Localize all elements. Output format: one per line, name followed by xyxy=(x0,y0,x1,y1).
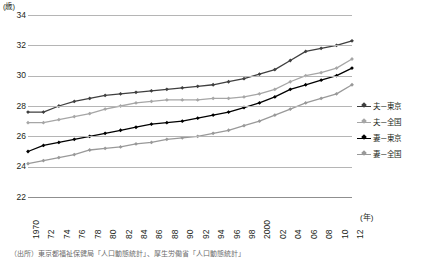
gridline xyxy=(28,136,352,137)
data-point-marker xyxy=(26,162,30,166)
x-axis-unit-label: (年) xyxy=(360,213,373,222)
data-point-marker xyxy=(180,119,184,123)
x-axis-tick: 78 xyxy=(94,230,103,239)
legend-item[interactable]: 夫－全国 xyxy=(357,114,422,130)
data-point-marker xyxy=(319,71,323,75)
data-point-marker xyxy=(57,156,61,160)
y-axis-tick: 26 xyxy=(4,132,26,141)
data-point-marker xyxy=(227,80,231,84)
legend-item-label: 夫－全国 xyxy=(373,118,401,127)
data-point-marker xyxy=(227,110,231,114)
data-point-marker xyxy=(196,116,200,120)
data-point-marker xyxy=(134,101,138,105)
x-axis-tick: 90 xyxy=(186,230,195,239)
data-point-marker xyxy=(150,141,154,145)
data-point-marker xyxy=(196,98,200,102)
data-point-marker xyxy=(180,86,184,90)
gridline xyxy=(28,197,352,198)
data-point-marker xyxy=(350,39,354,43)
data-point-marker xyxy=(165,137,169,141)
series-line xyxy=(28,59,352,123)
legend-marker-icon xyxy=(357,149,371,159)
legend-item-label: 妻－東京 xyxy=(373,134,401,143)
gridline xyxy=(28,45,352,46)
legend-item[interactable]: 夫－東京 xyxy=(357,98,422,114)
x-axis-tick: 1970 xyxy=(32,220,41,239)
data-point-marker xyxy=(134,142,138,146)
y-axis-tick: 22 xyxy=(4,193,26,202)
y-axis-tick: 24 xyxy=(4,162,26,171)
y-axis-tick: 34 xyxy=(4,11,26,20)
data-point-marker xyxy=(88,148,92,152)
data-point-marker xyxy=(165,98,169,102)
data-point-marker xyxy=(119,145,123,149)
data-point-marker xyxy=(72,100,76,104)
x-axis-tick: 10 xyxy=(341,230,350,239)
x-axis-tick: 72 xyxy=(47,230,56,239)
x-axis-tick: 84 xyxy=(140,230,149,239)
x-axis-tick: 92 xyxy=(202,230,211,239)
legend-marker-icon xyxy=(357,117,371,127)
data-point-marker xyxy=(57,118,61,122)
data-point-marker xyxy=(165,121,169,125)
x-axis-tick: 74 xyxy=(63,230,72,239)
data-point-marker xyxy=(258,119,262,123)
gridline xyxy=(28,106,352,107)
data-point-marker xyxy=(211,97,215,101)
legend-marker-icon xyxy=(357,133,371,143)
x-axis-tick: 2000 xyxy=(263,220,272,239)
data-point-marker xyxy=(196,84,200,88)
data-point-marker xyxy=(26,150,30,154)
data-point-marker xyxy=(103,107,107,111)
gridline xyxy=(28,15,352,16)
data-point-marker xyxy=(165,87,169,91)
data-point-marker xyxy=(304,101,308,105)
gridline xyxy=(28,76,352,77)
x-axis-tick-labels: 1970727476788082848688909294969820000204… xyxy=(28,199,352,241)
legend-item[interactable]: 妻－東京 xyxy=(357,130,422,146)
data-point-marker xyxy=(150,122,154,126)
x-axis-tick: 82 xyxy=(125,230,134,239)
data-point-marker xyxy=(134,90,138,94)
data-point-marker xyxy=(42,121,46,125)
x-axis-tick: 12 xyxy=(356,230,365,239)
data-point-marker xyxy=(150,100,154,104)
data-point-marker xyxy=(242,77,246,81)
data-point-marker xyxy=(42,159,46,163)
data-point-marker xyxy=(288,107,292,111)
data-point-marker xyxy=(227,128,231,132)
series-line xyxy=(28,68,352,151)
x-axis-tick: 88 xyxy=(171,230,180,239)
data-point-marker xyxy=(242,124,246,128)
data-point-marker xyxy=(57,141,61,145)
data-point-marker xyxy=(319,78,323,82)
data-point-marker xyxy=(88,97,92,101)
data-point-marker xyxy=(119,128,123,132)
data-point-marker xyxy=(180,98,184,102)
data-point-marker xyxy=(42,110,46,114)
x-axis-tick: 06 xyxy=(310,230,319,239)
series-line xyxy=(28,85,352,164)
data-point-marker xyxy=(72,153,76,157)
data-point-marker xyxy=(26,110,30,114)
x-axis-tick: 94 xyxy=(217,230,226,239)
y-axis-tick: 28 xyxy=(4,102,26,111)
data-point-marker xyxy=(103,93,107,97)
legend-item-label: 妻－全国 xyxy=(373,150,401,159)
data-point-marker xyxy=(42,144,46,148)
source-note: （出所）東京都福祉保健局「人口動態統計」、厚生労働省「人口動態統計」 xyxy=(10,250,422,258)
data-point-marker xyxy=(88,112,92,116)
line-chart: (歳) 22242628303234 197072747678808284868… xyxy=(0,0,422,258)
data-point-marker xyxy=(258,101,262,105)
data-point-marker xyxy=(319,46,323,50)
data-point-marker xyxy=(72,115,76,119)
data-point-marker xyxy=(258,92,262,96)
legend-marker-icon xyxy=(357,101,371,111)
x-axis-tick: 86 xyxy=(155,230,164,239)
data-point-marker xyxy=(273,113,277,117)
x-axis-tick: 04 xyxy=(294,230,303,239)
data-point-marker xyxy=(150,89,154,93)
y-axis-tick: 32 xyxy=(4,41,26,50)
legend-item[interactable]: 妻－全国 xyxy=(357,146,422,162)
data-point-marker xyxy=(242,95,246,99)
